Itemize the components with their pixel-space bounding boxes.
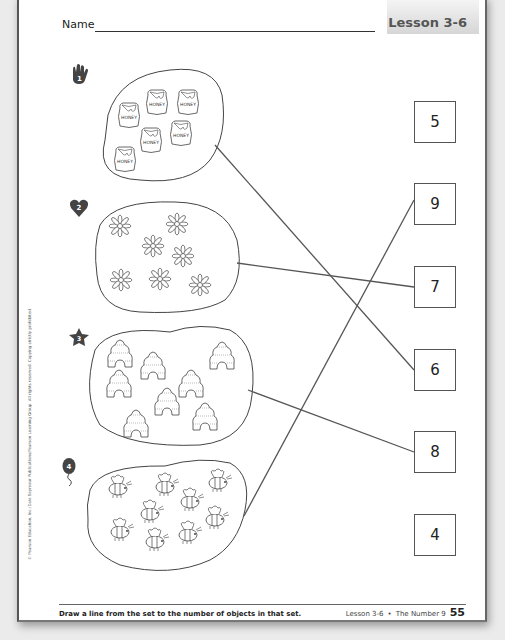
flower-icon <box>142 235 164 257</box>
beehive-icon <box>193 403 217 430</box>
set-2-flowers <box>96 202 240 313</box>
flower-icon <box>149 268 171 290</box>
bee-icon <box>156 473 179 496</box>
line-bees-to-9 <box>244 200 414 516</box>
marker-1-hand-icon: 1 <box>73 64 88 84</box>
svg-text:2: 2 <box>77 204 82 212</box>
flower-icon <box>109 215 131 237</box>
set-1-honey-jars <box>103 69 223 181</box>
line-hives-to-8 <box>248 390 414 452</box>
flower-icon <box>189 274 211 296</box>
honey-jar-icon <box>178 90 199 115</box>
set-3-beehives <box>90 326 254 445</box>
honey-jar-icon <box>141 128 162 153</box>
svg-text:1: 1 <box>77 75 82 83</box>
beehive-icon <box>179 370 203 397</box>
bee-icon <box>209 469 232 492</box>
marker-4-balloon-icon: 4 <box>63 458 76 486</box>
marker-2-heart-icon: 2 <box>70 200 88 217</box>
bee-icon <box>109 475 132 498</box>
svg-text:4: 4 <box>67 463 72 471</box>
number-value: 6 <box>430 361 440 379</box>
footer-lesson: Lesson 3-6 <box>346 610 384 618</box>
bee-icon <box>179 521 202 544</box>
flower-icon <box>110 269 132 291</box>
honey-jar-icon <box>119 103 140 128</box>
number-value: 4 <box>430 526 440 544</box>
set-4-bees <box>87 460 246 570</box>
footer-lesson-info: Lesson 3-6 • The Number 9 55 <box>346 606 465 619</box>
honey-jar-icon <box>115 147 136 172</box>
footer-bullet: • <box>388 610 392 618</box>
beehive-icon <box>141 352 165 379</box>
bee-icon <box>141 500 164 523</box>
footer-topic: The Number 9 <box>396 610 446 618</box>
number-box-4[interactable]: 4 <box>414 514 456 556</box>
flower-icon <box>166 213 188 235</box>
number-box-9[interactable]: 9 <box>414 183 456 225</box>
bee-icon <box>181 488 204 511</box>
bee-icon <box>206 506 229 529</box>
beehive-icon <box>155 388 179 415</box>
number-box-7[interactable]: 7 <box>414 266 456 308</box>
beehive-icon <box>107 370 131 397</box>
honey-jar-icon <box>171 121 192 146</box>
number-box-8[interactable]: 8 <box>414 431 456 473</box>
line-flowers-to-7 <box>237 263 414 287</box>
number-value: 5 <box>430 113 440 131</box>
page-number: 55 <box>450 606 465 619</box>
bee-icon <box>146 528 169 551</box>
beehive-icon <box>210 342 234 369</box>
number-box-6[interactable]: 6 <box>414 349 456 391</box>
number-value: 7 <box>430 278 440 296</box>
beehive-icon <box>124 410 148 437</box>
honey-jar-icon <box>147 90 168 115</box>
marker-3-star-icon: 3 <box>69 328 89 346</box>
bee-icon <box>111 518 134 541</box>
number-value: 8 <box>430 443 440 461</box>
number-box-5[interactable]: 5 <box>414 101 456 143</box>
svg-text:3: 3 <box>77 335 82 343</box>
flower-icon <box>172 245 194 267</box>
footer-divider <box>59 604 466 605</box>
instruction-text: Draw a line from the set to the number o… <box>59 610 301 618</box>
number-value: 9 <box>430 195 440 213</box>
beehive-icon <box>108 340 132 367</box>
matching-lines <box>215 145 414 516</box>
line-honey-to-6 <box>215 145 414 370</box>
